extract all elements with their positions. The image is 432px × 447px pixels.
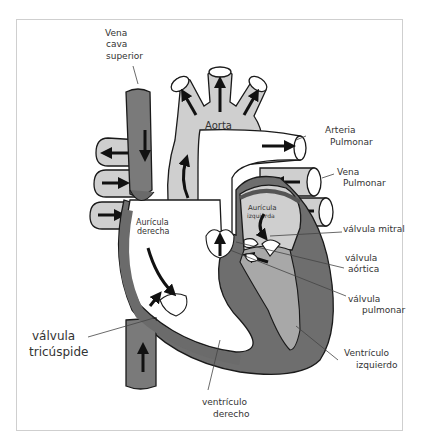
label-auricula-derecha-1: Aurícula (136, 218, 169, 227)
label-vena-pulmonar-1: Vena (337, 167, 359, 177)
label-auricula-derecha-2: derecha (137, 227, 170, 236)
label-auricula-izquierda-1: Aurícula (248, 204, 277, 212)
label-valvula-aortica-2: aórtica (348, 264, 379, 274)
label-vena-pulmonar-2: Pulmonar (343, 178, 386, 188)
vena-cava-superior (126, 89, 152, 196)
label-vena-cava-1: Vena (105, 28, 127, 38)
label-ventriculo-derecho-1: ventrículo (202, 397, 247, 407)
label-valvula-mitral: válvula mitral (343, 224, 405, 234)
label-valvula-tricuspide-1: válvula (32, 329, 75, 343)
heart-diagram: Aorta Aurícula izquierda (0, 0, 432, 447)
label-valvula-aortica-1: válvula (345, 253, 377, 263)
label-ventriculo-izquierdo-1: Ventrículo (344, 348, 390, 358)
label-vena-cava-3: superior (106, 51, 143, 61)
label-valvula-tricuspide-2: tricúspide (29, 345, 88, 359)
label-vena-cava-2: cava (106, 39, 127, 49)
label-valvula-pulmonar-1: válvula (348, 294, 380, 304)
label-ventriculo-izquierdo-2: izquierdo (356, 360, 398, 370)
label-arteria-pulmonar-2: Pulmonar (330, 137, 373, 147)
label-arteria-pulmonar-1: Arteria (325, 125, 356, 135)
label-valvula-pulmonar-2: pulmonar (362, 305, 405, 315)
label-ventriculo-derecho-2: derecho (213, 409, 250, 419)
